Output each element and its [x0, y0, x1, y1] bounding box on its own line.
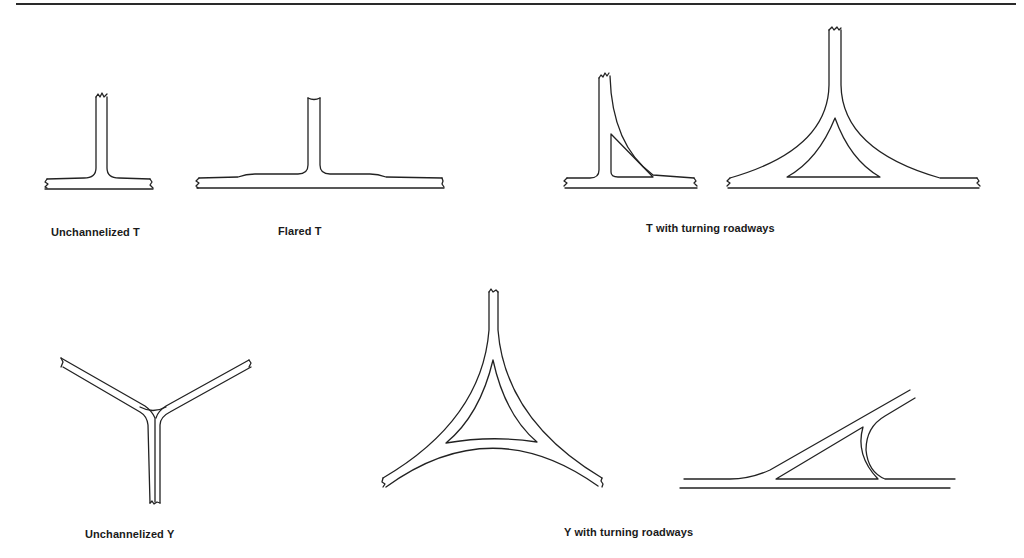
t-turning-left-drawing	[564, 73, 697, 188]
unchannelized-y-drawing	[61, 358, 251, 504]
label-unchannelized-y: Unchannelized Y	[85, 528, 174, 540]
y-turning-triangle-drawing	[382, 289, 603, 487]
intersection-drawings	[0, 0, 1024, 558]
t-turning-right-drawing	[727, 27, 980, 188]
label-unchannelized-t: Unchannelized T	[51, 226, 140, 238]
unchannelized-t-drawing	[45, 93, 153, 189]
label-y-turning-roadways: Y with turning roadways	[564, 526, 693, 538]
label-t-turning-roadways: T with turning roadways	[646, 222, 775, 234]
flared-t-drawing	[196, 98, 444, 188]
label-flared-t: Flared T	[278, 225, 322, 237]
y-turning-oblique-drawing	[680, 390, 955, 488]
